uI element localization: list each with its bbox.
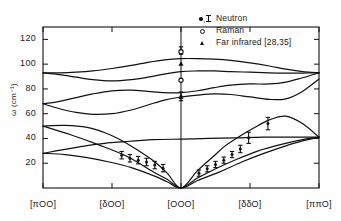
legend-label-raman: Raman xyxy=(216,25,244,36)
legend-label-far-infrared: Far infrared [28,35] xyxy=(216,37,291,48)
raman-data-point xyxy=(179,50,183,54)
legend-label-neutron: Neutron xyxy=(216,13,247,24)
filled-triangle-icon xyxy=(200,41,204,45)
neutron-data-point xyxy=(214,163,217,166)
neutron-data-point xyxy=(162,167,165,170)
neutron-data-point xyxy=(206,167,209,170)
neutron-data-point xyxy=(120,154,123,157)
legend-item-far-infrared: Far infrared [28,35] xyxy=(196,37,316,48)
open-circle-icon xyxy=(200,29,205,34)
neutron-data-point xyxy=(247,136,250,139)
neutron-data-point xyxy=(231,153,234,156)
errorbar-icon xyxy=(208,15,209,22)
raman-symbol xyxy=(196,25,216,36)
neutron-data-point xyxy=(239,147,242,150)
neutron-data-point xyxy=(197,172,200,175)
raman-data-point xyxy=(179,78,183,82)
legend-item-raman: Raman xyxy=(196,25,316,36)
neutron-data-point xyxy=(222,159,225,162)
far-infrared-symbol xyxy=(196,37,216,48)
legend: , Neutron Raman Far infrared [28,35] xyxy=(196,13,316,49)
neutron-symbol: , xyxy=(196,13,216,24)
legend-item-neutron: , Neutron xyxy=(196,13,316,24)
filled-circle-icon xyxy=(199,17,203,21)
neutron-data-point xyxy=(128,157,131,160)
neutron-data-point xyxy=(153,164,156,167)
neutron-data-point xyxy=(266,122,269,125)
neutron-data-point xyxy=(145,160,148,163)
neutron-data-point xyxy=(137,159,140,162)
phonon-dispersion-figure: ω (cm⁻¹) 20406080100120 [πOO][δOO][OOO][… xyxy=(0,0,341,221)
comma-separator: , xyxy=(203,15,205,24)
